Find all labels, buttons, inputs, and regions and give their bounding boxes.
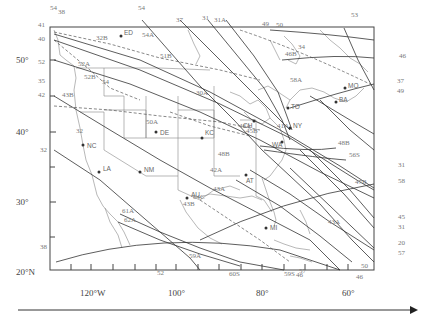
track-label: 20	[398, 239, 406, 247]
track-label: 45B	[246, 127, 258, 135]
track-label: 31	[398, 223, 406, 231]
arrow-head-icon	[410, 306, 418, 314]
track-label: 62A	[124, 216, 136, 224]
track-label: 58	[398, 177, 406, 185]
track-label: 31A	[214, 16, 226, 24]
track-label: 31	[202, 14, 210, 22]
track-label: 49	[262, 20, 270, 28]
track-label: 57	[398, 249, 406, 257]
track-label: 54	[138, 4, 146, 12]
track-label: 30A	[196, 89, 208, 97]
svg-text:MI: MI	[270, 224, 277, 231]
track-label: 49	[397, 87, 405, 95]
track-label: 43A	[328, 218, 340, 226]
track-label: 50	[361, 262, 369, 270]
track-label: 64C	[193, 193, 205, 201]
track-label: 50A	[146, 118, 158, 126]
city-ED: ED	[120, 29, 134, 38]
track-label: 54	[102, 78, 110, 86]
track-label: 43A	[213, 185, 225, 193]
svg-text:NC: NC	[87, 142, 97, 149]
track-label: 34	[298, 43, 306, 51]
track-label: 54	[50, 4, 58, 12]
svg-text:KC: KC	[205, 129, 214, 136]
track-label: 52	[38, 58, 46, 66]
svg-text:AT: AT	[246, 177, 254, 184]
lat-label-30: 30°	[16, 197, 29, 207]
track-label: 57	[299, 267, 307, 275]
track-label: 35	[38, 77, 46, 85]
hurricane-track-map: 50° 40° 30° 20°N 120°W 100° 80° 60°	[0, 0, 422, 322]
lon-label-80: 80°	[256, 288, 269, 298]
track-label: 53	[351, 11, 359, 19]
track-label: 45	[398, 213, 406, 221]
city-AT: AT	[245, 174, 254, 185]
track-label: 31	[398, 161, 406, 169]
svg-text:NY: NY	[293, 122, 303, 129]
svg-text:DE: DE	[160, 129, 170, 136]
svg-text:ED: ED	[124, 29, 133, 36]
lon-label-60: 60°	[342, 288, 355, 298]
track-label: 60S	[229, 270, 240, 278]
lat-labels: 50° 40° 30° 20°N	[16, 55, 36, 277]
lon-labels: 120°W 100° 80° 60°	[80, 288, 355, 298]
city-NM: NM	[139, 166, 155, 174]
city-LA: LA	[98, 165, 112, 174]
track-label: 54A	[142, 31, 154, 39]
track-label: 42	[38, 91, 46, 99]
track-label: 32	[76, 127, 84, 135]
city-TO: TO	[287, 103, 300, 110]
track-label: 43B	[183, 200, 195, 208]
svg-text:BA: BA	[339, 96, 348, 103]
track-label: 48B	[218, 150, 230, 158]
track-label: 40	[38, 35, 46, 43]
svg-text:TO: TO	[291, 103, 300, 110]
track-label: 52	[157, 269, 165, 277]
track-label: 46	[399, 52, 407, 60]
track-label: 46B	[285, 50, 297, 58]
track-label: 52B	[84, 73, 96, 81]
track-label: 51B	[160, 52, 172, 60]
svg-text:WA: WA	[272, 141, 283, 148]
track-label: 41	[38, 21, 46, 29]
track-label: 38	[58, 8, 66, 16]
track-label: 32B	[96, 34, 108, 42]
lat-label-20: 20°N	[16, 267, 36, 277]
lat-label-40: 40°	[16, 127, 29, 137]
track-label: 52A	[78, 60, 90, 68]
coastlines-borders	[54, 30, 368, 262]
time-arrow	[18, 306, 418, 314]
lat-label-50: 50°	[16, 55, 29, 65]
track-label: 32	[40, 146, 48, 154]
city-MO: MO	[344, 82, 359, 90]
track-label: 56S	[349, 151, 360, 159]
city-DE: DE	[155, 129, 170, 136]
svg-text:NM: NM	[144, 166, 154, 173]
track-label: 61A	[122, 207, 134, 215]
track-label: 37	[176, 16, 184, 24]
track-label: 47B	[355, 178, 367, 186]
city-MI: MI	[265, 224, 278, 231]
city-BA: BA	[335, 96, 349, 104]
track-label: 42A	[210, 166, 222, 174]
track-label: 59S	[284, 270, 295, 278]
track-label: 58A	[290, 76, 302, 84]
city-WA: WA	[272, 141, 284, 149]
track-label: 46	[356, 273, 364, 281]
track-label: 50	[276, 21, 284, 29]
track-label: 59A	[189, 252, 201, 260]
lon-label-120: 120°W	[80, 288, 106, 298]
svg-text:LA: LA	[103, 165, 112, 172]
track-label: 38	[40, 243, 48, 251]
track-label: 48B	[338, 139, 350, 147]
track-label: 37	[397, 77, 405, 85]
lon-label-100: 100°	[168, 288, 186, 298]
track-label: 43B	[62, 91, 74, 99]
track-label: 41A	[277, 122, 289, 130]
svg-text:MO: MO	[348, 82, 358, 89]
